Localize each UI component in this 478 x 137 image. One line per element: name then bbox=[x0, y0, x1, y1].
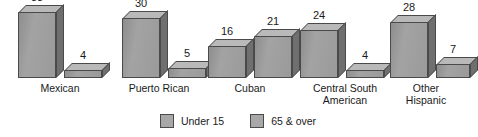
bar-value-label: 16 bbox=[208, 26, 246, 37]
category-label-line: Mexican bbox=[40, 82, 79, 94]
bar-group-other-hispanic: 28 7 Other Hispanic bbox=[386, 0, 478, 106]
bar-front-face bbox=[18, 12, 56, 78]
bar-front-face bbox=[390, 22, 428, 78]
bar-under-15[interactable]: 24 bbox=[300, 30, 338, 78]
bar-front-face bbox=[208, 46, 246, 78]
bar-side-face bbox=[428, 14, 436, 78]
bar-under-15[interactable]: 28 bbox=[390, 22, 428, 78]
bar-side-face bbox=[160, 10, 168, 78]
bar-under-15[interactable]: 30 bbox=[122, 18, 160, 78]
plot-area: 33 4 Mexican 30 bbox=[0, 0, 476, 106]
legend-item-under-15[interactable]: Under 15 bbox=[160, 114, 224, 128]
bar-under-15[interactable]: 33 bbox=[18, 12, 56, 78]
bar-side-face bbox=[338, 22, 346, 78]
bar-front-face bbox=[436, 64, 470, 78]
bar-front-face bbox=[122, 18, 160, 78]
bar-65-over[interactable]: 4 bbox=[346, 70, 384, 78]
bar-group-mexican: 33 4 Mexican bbox=[6, 0, 114, 106]
bars-row: 33 4 bbox=[6, 0, 114, 78]
legend-label: 65 & over bbox=[271, 115, 316, 127]
bar-value-label: 4 bbox=[64, 50, 102, 61]
legend-swatch-icon bbox=[160, 114, 174, 128]
bar-side-face bbox=[56, 4, 64, 78]
bar-value-label: 33 bbox=[18, 0, 56, 3]
category-label-mexican: Mexican bbox=[6, 82, 114, 94]
legend-swatch-icon bbox=[250, 114, 264, 128]
bar-value-label: 7 bbox=[436, 44, 470, 55]
bar-65-over[interactable]: 4 bbox=[64, 70, 102, 78]
bar-value-label: 4 bbox=[346, 50, 384, 61]
legend-label: Under 15 bbox=[181, 115, 224, 127]
bar-value-label: 24 bbox=[300, 10, 338, 21]
bar-value-label: 30 bbox=[122, 0, 160, 9]
category-label-line: Cuban bbox=[235, 82, 266, 94]
bar-value-label: 28 bbox=[390, 2, 428, 13]
category-label-other-hispanic: Other Hispanic bbox=[380, 82, 472, 106]
bar-front-face bbox=[300, 30, 338, 78]
legend-item-65-over[interactable]: 65 & over bbox=[250, 114, 316, 128]
category-label-line: Hispanic bbox=[380, 94, 472, 106]
bar-side-face bbox=[246, 38, 254, 78]
bar-front-face bbox=[346, 70, 384, 78]
bar-front-face bbox=[64, 70, 102, 78]
bars-row: 28 7 bbox=[386, 0, 478, 78]
chart-legend: Under 15 65 & over bbox=[0, 110, 476, 132]
bar-65-over[interactable]: 7 bbox=[436, 64, 470, 78]
category-label-line: Puerto Rican bbox=[129, 82, 190, 94]
category-label-line: Other bbox=[380, 82, 472, 94]
bar-under-15[interactable]: 16 bbox=[208, 46, 246, 78]
